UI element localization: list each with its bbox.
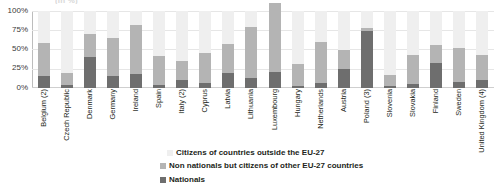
x-axis-tick-label-slot: Netherlands [309, 89, 332, 147]
bar-segment-outside-eu [245, 11, 257, 27]
x-axis-tick-label: Slovakia [409, 89, 417, 117]
bar-segment-outside-eu [222, 11, 234, 44]
plot-area [32, 11, 494, 88]
legend-swatch-non-nationals-eu [160, 163, 166, 169]
x-axis-tick-label-slot: Belgium (2) [32, 89, 55, 147]
bar-segment-nationals [61, 85, 73, 88]
bar-segment-nationals [107, 76, 119, 88]
bar-segment-nationals [361, 31, 373, 88]
bar-segment-nationals [222, 73, 234, 88]
x-axis-tick-label-slot: Sweden [448, 89, 471, 147]
bar-segment-outside-eu [292, 11, 304, 64]
x-axis-tick-label-slot: Spain [148, 89, 171, 147]
x-axis-tick-label-slot: Poland (3) [355, 89, 378, 147]
bar-segment-non-nationals-eu [199, 53, 211, 83]
x-axis-tick-label-slot: Ireland [124, 89, 147, 147]
x-axis-tick-label: Germany [109, 89, 117, 119]
bar-stack [476, 11, 488, 88]
bar-segment-outside-eu [430, 11, 442, 45]
legend-label-non-nationals-eu: Non nationals but citizens of other EU-2… [169, 161, 363, 170]
bar-segment-non-nationals-eu [315, 42, 327, 84]
bar-stack [130, 11, 142, 88]
bar-segment-outside-eu [407, 11, 419, 55]
bar-segment-outside-eu [361, 11, 373, 28]
y-tick-25: 25% [12, 64, 28, 72]
x-axis-tick-label-slot: Lithuania [240, 89, 263, 147]
x-axis-tick-label-slot: Luxembourg [263, 89, 286, 147]
x-axis-tick-label: Ireland [132, 89, 140, 112]
bar-stack [384, 11, 396, 88]
x-axis-tick-label: Latvia [224, 89, 232, 109]
bar-segment-nationals [130, 74, 142, 88]
legend-label-outside-eu: Citizens of countries outside the EU-27 [176, 148, 324, 157]
bar-segment-non-nationals-eu [338, 50, 350, 69]
bar-stack [453, 11, 465, 88]
bar-segment-nationals [38, 76, 50, 88]
x-axis-tick-label-slot: Hungary [286, 89, 309, 147]
legend-item-nationals: Nationals [160, 175, 205, 184]
bar-stack [176, 11, 188, 88]
bar-segment-outside-eu [84, 11, 96, 34]
bar-segment-non-nationals-eu [407, 55, 419, 84]
bar-segment-non-nationals-eu [269, 3, 281, 72]
y-tick-75: 75% [12, 26, 28, 34]
legend-item-outside-eu: Citizens of countries outside the EU-27 [167, 148, 324, 157]
bar-segment-non-nationals-eu [361, 28, 373, 31]
bar-segment-non-nationals-eu [107, 38, 119, 76]
legend-label-nationals: Nationals [169, 175, 205, 184]
bar-stack [38, 11, 50, 88]
x-axis-tick-label: Poland (3) [363, 89, 371, 123]
x-axis-tick-label-slot: Finland [425, 89, 448, 147]
x-axis-tick-label: Finland [432, 89, 440, 113]
bar-stack [338, 11, 350, 88]
bar-segment-nationals [176, 80, 188, 88]
bar-stack [430, 11, 442, 88]
bar-segment-outside-eu [153, 11, 165, 56]
bar-segment-non-nationals-eu [430, 45, 442, 63]
legend-item-non-nationals-eu: Non nationals but citizens of other EU-2… [160, 161, 363, 170]
bar-segment-nationals [430, 63, 442, 88]
y-tick-50: 50% [12, 45, 28, 53]
bar-segment-outside-eu [453, 11, 465, 48]
bar-stack [61, 11, 73, 88]
x-axis-tick-label: Spain [155, 89, 163, 108]
bar-stack [153, 11, 165, 88]
bar-segment-nationals [153, 85, 165, 88]
x-axis-tick-label-slot: Germany [101, 89, 124, 147]
x-axis-tick-label: Cyprus [201, 89, 209, 112]
bar-segment-nationals [338, 69, 350, 88]
x-axis-tick-label-slot: Latvia [217, 89, 240, 147]
bar-stack [292, 11, 304, 88]
x-axis-tick-label-slot: United Kingdom (4) [471, 89, 494, 147]
bar-segment-outside-eu [315, 11, 327, 42]
bar-segment-non-nationals-eu [222, 44, 234, 73]
legend-swatch-outside-eu [167, 150, 173, 156]
x-axis-tick-label: Italy (2) [178, 89, 186, 114]
bar-segment-nationals [245, 78, 257, 88]
x-axis-labels: Belgium (2)Czech RepublicDenmarkGermanyI… [32, 89, 494, 147]
bar-segment-outside-eu [384, 11, 396, 75]
y-tick-0: 0% [16, 84, 28, 92]
bar-stack [222, 11, 234, 88]
x-axis-tick-label: Lithuania [247, 89, 255, 119]
bar-segment-non-nationals-eu [292, 64, 304, 86]
bar-segment-non-nationals-eu [476, 55, 488, 80]
bar-stack [84, 11, 96, 88]
clipped-title-text: (in %) [55, 0, 78, 4]
bar-segment-outside-eu [476, 11, 488, 55]
x-axis-tick-label: Belgium (2) [40, 89, 48, 127]
x-axis-tick-label: Luxembourg [271, 89, 279, 130]
x-axis-tick-label: Hungary [294, 89, 302, 117]
bar-segment-nationals [199, 83, 211, 88]
x-axis-tick-label: Czech Republic [63, 89, 71, 141]
bar-segment-nationals [476, 80, 488, 88]
x-axis-tick-label: Denmark [86, 89, 94, 119]
bar-stack [107, 11, 119, 88]
bar-segment-nationals [407, 84, 419, 88]
chart-container: (in %) 100% 75% 50% 25% 0% Belgium (2)Cz… [0, 0, 498, 192]
bar-segment-non-nationals-eu [130, 25, 142, 74]
x-axis-tick-label: Austria [340, 89, 348, 112]
legend-swatch-nationals [160, 177, 166, 183]
bar-segment-outside-eu [61, 11, 73, 73]
x-axis-tick-label-slot: Italy (2) [171, 89, 194, 147]
